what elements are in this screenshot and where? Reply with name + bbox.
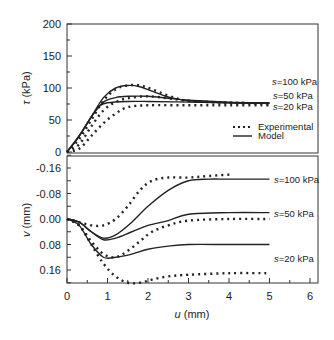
model-curve [67, 179, 270, 238]
annotation-s20-upper: s=20 kPa [273, 101, 314, 112]
annotation-s50-lower: s=50 kPa [274, 208, 315, 219]
annotation-s50-upper: s=50 kPa [273, 90, 314, 101]
y-tick-label: -0.16 [36, 162, 61, 174]
experimental-curve [67, 96, 270, 152]
y-tick-label: 150 [43, 50, 61, 62]
y-tick-label: 0.00 [40, 213, 61, 225]
x-axis-label: u (mm) [175, 308, 210, 320]
experimental-curve [67, 85, 270, 152]
experimental-curve [67, 105, 270, 152]
y-tick-label: 0 [55, 146, 61, 158]
data-curves [67, 85, 270, 283]
x-tick-label: 2 [145, 290, 151, 302]
x-tick-label: 5 [266, 290, 272, 302]
annotation-s100-lower: s=100 kPa [274, 174, 320, 185]
y-tick-label: -0.08 [36, 188, 61, 200]
tick-labels: 050100150200-0.16-0.080.000.080.16012345… [36, 18, 313, 302]
y-tick-label: 200 [43, 18, 61, 30]
y-tick-label: 100 [43, 82, 61, 94]
lower-y-axis-label: v (mm) [20, 203, 32, 237]
y-tick-label: 50 [49, 114, 61, 126]
model-curve [67, 96, 270, 152]
experimental-curve [67, 174, 233, 226]
y-tick-label: 0.16 [40, 264, 61, 276]
legend: Experimental Model [233, 121, 313, 141]
x-tick-label: 6 [307, 290, 313, 302]
chart: 050100150200-0.16-0.080.000.080.16012345… [0, 0, 334, 340]
x-tick-label: 4 [226, 290, 232, 302]
legend-model-label: Model [258, 130, 284, 141]
annotation-s20-lower: s=20 kPa [274, 253, 315, 264]
x-tick-label: 3 [185, 290, 191, 302]
upper-y-axis-label: τ (kPa) [20, 71, 32, 104]
x-tick-label: 0 [64, 290, 70, 302]
model-curve [67, 85, 270, 152]
x-tick-label: 1 [104, 290, 110, 302]
y-tick-label: 0.08 [40, 239, 61, 251]
annotation-s100-upper: s=100 kPa [272, 76, 318, 87]
